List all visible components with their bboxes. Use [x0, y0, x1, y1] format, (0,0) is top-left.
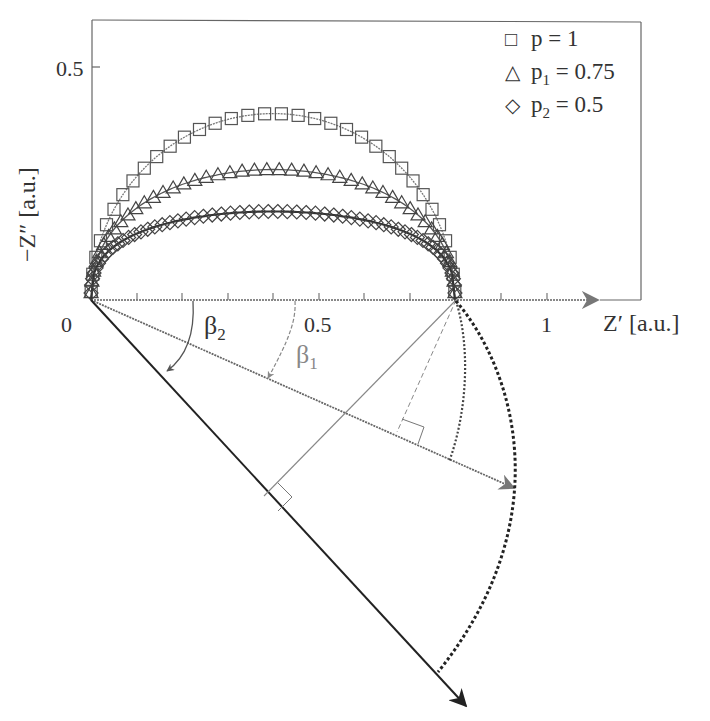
- diamond-marker-icon: ◇: [505, 93, 531, 117]
- x-ticks: [137, 293, 547, 300]
- triangle-marker: [272, 163, 286, 175]
- triangle-marker: [376, 185, 390, 197]
- series-layer: [84, 108, 462, 300]
- perpendicular-to-ray1: [397, 300, 456, 432]
- y-tick-label-0.5: 0.5: [56, 56, 84, 82]
- square-marker: [370, 140, 382, 152]
- legend-item-p1: △p1 = 0.75: [505, 59, 615, 89]
- ray-beta2: [91, 300, 466, 706]
- triangle-marker-icon: △: [505, 60, 531, 84]
- x-tick-label-0: 0: [61, 312, 72, 338]
- square-marker: [417, 189, 429, 201]
- right-angle-mark-ray2: [278, 483, 292, 511]
- triangle-marker: [247, 163, 261, 175]
- square-marker: [127, 175, 139, 187]
- legend-item-p2: ◇p2 = 0.5: [505, 92, 603, 122]
- triangle-marker: [156, 185, 170, 197]
- series-curve-0: [91, 114, 455, 300]
- square-marker: [341, 123, 353, 135]
- dotted-arc-small: [449, 301, 465, 462]
- legend-item-p: □p = 1: [505, 26, 578, 56]
- dotted-arc-large: [438, 301, 515, 672]
- square-marker: [164, 140, 176, 152]
- beta1-angle-arrow: [268, 301, 295, 378]
- square-marker-icon: □: [505, 28, 531, 51]
- right-angle-mark-ray1: [402, 419, 424, 444]
- square-marker: [209, 117, 221, 129]
- beta2-label: β2: [204, 311, 226, 345]
- x-axis-title: Z′ [a.u.]: [603, 310, 680, 337]
- perpendicular-to-ray2: [264, 300, 456, 496]
- beta1-label: β1: [296, 340, 318, 374]
- x-tick-label-0.5: 0.5: [304, 312, 332, 338]
- x-tick-label-1: 1: [541, 312, 552, 338]
- triangle-marker: [260, 163, 274, 175]
- nyquist-chart: [0, 0, 710, 721]
- triangle-marker: [285, 163, 299, 175]
- y-axis-title: −Z″ [a.u.]: [14, 167, 41, 262]
